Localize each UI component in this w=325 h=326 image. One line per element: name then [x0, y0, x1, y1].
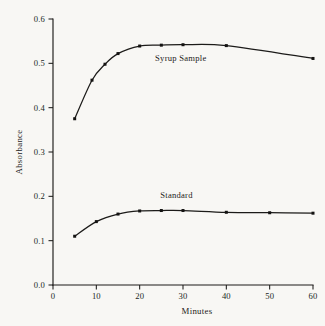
data-point-marker	[104, 63, 107, 66]
data-point-marker	[95, 220, 98, 223]
y-tick-label: 0.1	[34, 236, 45, 246]
y-axis-ticks	[49, 19, 54, 285]
data-point-marker	[117, 213, 120, 216]
data-point-marker	[117, 52, 120, 55]
x-tick-label: 20	[135, 291, 144, 301]
data-point-marker	[160, 209, 163, 212]
y-tick-label: 0.3	[34, 147, 45, 157]
y-axis-tick-labels: 0.00.10.20.30.40.50.6	[34, 14, 46, 290]
x-tick-label: 40	[222, 291, 231, 301]
data-point-marker	[225, 44, 228, 47]
data-point-marker	[225, 211, 228, 214]
data-point-marker	[182, 209, 185, 212]
data-point-marker	[268, 211, 271, 214]
data-point-marker	[73, 117, 76, 120]
data-point-marker	[312, 212, 315, 215]
x-axis-title: Minutes	[182, 306, 213, 316]
y-tick-label: 0.0	[34, 280, 45, 290]
data-point-marker	[73, 235, 76, 238]
data-point-marker	[138, 45, 141, 48]
data-point-marker	[138, 209, 141, 212]
series-inline-labels: Syrup SampleStandard	[155, 53, 206, 200]
series-label: Standard	[160, 190, 193, 200]
absorbance-vs-minutes-figure: 0.00.10.20.30.40.50.6 0102030405060 Syru…	[0, 0, 325, 326]
x-axis-ticks	[53, 285, 313, 290]
series-2	[73, 209, 314, 238]
series-label: Syrup Sample	[155, 53, 206, 63]
chart-canvas: 0.00.10.20.30.40.50.6 0102030405060 Syru…	[0, 0, 325, 326]
x-tick-label: 50	[265, 291, 274, 301]
data-point-marker	[91, 79, 94, 82]
y-tick-label: 0.2	[34, 191, 45, 201]
x-axis-tick-labels: 0102030405060	[51, 291, 318, 301]
x-tick-label: 10	[92, 291, 101, 301]
data-point-marker	[160, 44, 163, 47]
data-point-marker	[312, 57, 315, 60]
data-series-group	[73, 43, 314, 238]
y-axis-title: Absorbance	[14, 129, 24, 174]
x-tick-label: 0	[51, 291, 55, 301]
data-point-marker	[182, 43, 185, 46]
y-tick-label: 0.4	[34, 103, 46, 113]
y-tick-label: 0.5	[34, 58, 45, 68]
y-tick-label: 0.6	[34, 14, 46, 24]
x-tick-label: 60	[309, 291, 318, 301]
x-tick-label: 30	[179, 291, 188, 301]
series-curve	[75, 210, 313, 236]
